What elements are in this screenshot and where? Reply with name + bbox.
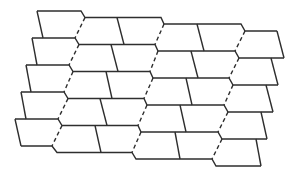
divider-2: [111, 45, 118, 72]
divider-6: [100, 99, 107, 126]
row-line-1: [32, 38, 284, 58]
left-edges: [15, 11, 43, 146]
divider-9: [175, 132, 180, 159]
row-line-3: [21, 92, 273, 112]
divider-8: [95, 126, 101, 153]
dashed-seam-9: [132, 132, 141, 153]
dashed-seam-8: [138, 105, 147, 126]
divider-3: [191, 51, 198, 78]
dashed-seams: [52, 18, 245, 160]
left-edge-0: [37, 11, 43, 38]
right-edge-3: [261, 112, 267, 139]
tile-dividers: [95, 18, 204, 160]
dashed-seam-13: [218, 112, 228, 132]
right-edge-0: [277, 31, 284, 58]
tiling-diagram: [0, 0, 296, 172]
right-edge-2: [266, 85, 273, 112]
dashed-seam-6: [150, 51, 158, 72]
right-edges: [256, 31, 284, 166]
dashed-seam-10: [235, 31, 245, 51]
row-line-0: [37, 11, 277, 31]
left-edge-3: [21, 92, 26, 119]
dashed-seam-12: [224, 85, 233, 105]
divider-7: [180, 105, 186, 132]
dashed-seam-5: [155, 24, 164, 45]
row-line-2: [26, 65, 278, 85]
dashed-seam-1: [69, 45, 79, 66]
divider-5: [186, 78, 192, 105]
dashed-seam-3: [58, 99, 68, 120]
left-edge-2: [26, 65, 31, 92]
divider-4: [106, 72, 112, 99]
right-edge-4: [256, 139, 261, 166]
dashed-seam-2: [64, 72, 73, 93]
divider-0: [117, 18, 124, 45]
dashed-seam-14: [212, 139, 222, 159]
divider-1: [197, 24, 204, 51]
right-edge-1: [271, 58, 278, 85]
dashed-seam-0: [75, 18, 85, 39]
dashed-seam-11: [229, 58, 239, 78]
row-line-5: [21, 146, 261, 166]
left-edge-4: [15, 119, 21, 146]
row-line-4: [15, 119, 267, 139]
dashed-seam-4: [52, 126, 62, 147]
left-edge-1: [32, 38, 37, 65]
dashed-seam-7: [144, 78, 153, 99]
